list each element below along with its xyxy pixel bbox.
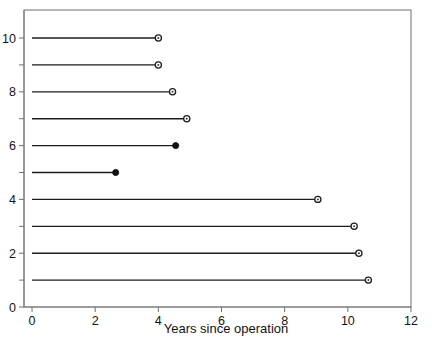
x-tick-label-4: 4	[155, 314, 162, 328]
data-markers	[113, 35, 372, 283]
y-tick-label-2: 2	[9, 247, 16, 261]
marker-open-core-subject-10	[157, 37, 159, 39]
plot-frame	[24, 10, 411, 307]
x-tick-label-0: 0	[29, 314, 36, 328]
marker-open-core-subject-4	[317, 198, 319, 200]
chart-figure: 0246810120246810 Years since operation	[0, 0, 432, 344]
y-tick-label-10: 10	[2, 32, 16, 46]
plot-border	[24, 10, 411, 307]
marker-open-core-subject-1	[367, 279, 369, 281]
marker-open-core-subject-3	[353, 225, 355, 227]
x-axis-title: Years since operation	[164, 321, 289, 336]
y-tick-label-0: 0	[9, 301, 16, 315]
axis-labels: 0246810120246810	[2, 32, 418, 329]
axis-ticks	[19, 38, 411, 312]
y-tick-label-4: 4	[9, 193, 16, 207]
marker-open-core-subject-2	[358, 252, 360, 254]
marker-closed-subject-5	[113, 170, 119, 176]
x-tick-label-10: 10	[341, 314, 355, 328]
marker-open-core-subject-8	[172, 91, 174, 93]
data-lines	[32, 38, 368, 280]
x-tick-label-2: 2	[92, 314, 99, 328]
y-tick-label-8: 8	[9, 85, 16, 99]
y-tick-label-6: 6	[9, 139, 16, 153]
marker-closed-subject-6	[173, 143, 179, 149]
marker-open-core-subject-9	[157, 64, 159, 66]
x-tick-label-12: 12	[404, 314, 418, 328]
marker-open-core-subject-7	[186, 118, 188, 120]
chart-canvas: 0246810120246810 Years since operation	[0, 0, 432, 344]
